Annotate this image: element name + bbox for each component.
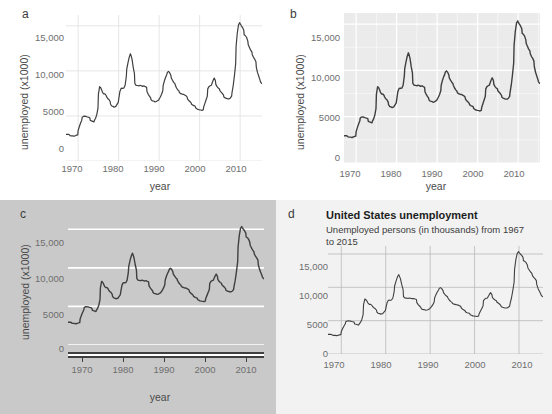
panel-c-plot-area — [68, 220, 264, 345]
panel-b-ytick-10000: 10,000 — [296, 72, 340, 83]
panel-c-ytick-5000: 5000 — [20, 309, 64, 320]
panel-d-ytick-10000: 10,000 — [284, 290, 328, 301]
panel-b-ytick-15000: 15,000 — [296, 32, 340, 43]
panel-d-ytick-0: 0 — [284, 348, 328, 359]
panel-c-xtickmark-2010 — [246, 358, 247, 362]
panel-c-y-axis-title: unemployed (x1000) — [19, 244, 31, 340]
panel-b-xtick-1990: 1990 — [415, 168, 449, 179]
panel-b-plot-area — [344, 13, 540, 163]
panel-d-xtick-2010: 2010 — [505, 359, 539, 370]
panel-b-xtick-2000: 2000 — [456, 168, 490, 179]
panel-d-xtick-2000: 2000 — [458, 359, 492, 370]
figure-canvas: a unemployed (x1000) year 0 5000 10,000 … — [0, 0, 552, 414]
panel-d-subtitle: Unemployed persons (in thousands) from 1… — [326, 224, 526, 248]
panel-c-xtickmark-2000 — [205, 358, 206, 362]
panel-a-ytick-0: 0 — [22, 143, 64, 154]
panel-c-x-axis-title: year — [60, 391, 260, 403]
panel-a-ytick-10000: 10,000 — [22, 69, 64, 80]
panel-d-xtick-1980: 1980 — [364, 359, 398, 370]
panel-c-xtick-1990: 1990 — [147, 364, 181, 375]
panel-c-ytick-15000: 15,000 — [20, 237, 64, 248]
panel-d-plot-area — [328, 246, 543, 354]
panel-a-xtick-1970: 1970 — [55, 163, 89, 174]
panel-b-ytick-0: 0 — [296, 152, 340, 163]
panel-b-xtick-1980: 1980 — [374, 168, 408, 179]
panel-d-title: United States unemployment — [326, 209, 478, 221]
panel-c-x-axis-bar — [68, 352, 264, 358]
panel-a-xtick-1990: 1990 — [137, 163, 171, 174]
panel-b-xtick-1970: 1970 — [333, 168, 367, 179]
panel-b-y-axis-title: unemployed (x1000) — [294, 54, 306, 150]
panel-a-ytick-15000: 15,000 — [22, 32, 64, 43]
panel-d-ytick-5000: 5000 — [284, 319, 328, 330]
panel-c-xtickmark-1980 — [123, 358, 124, 362]
panel-a-letter: a — [22, 8, 29, 20]
panel-c-xtickmark-1970 — [82, 358, 83, 362]
panel-b: b unemployed (x1000) year 0 5000 10,000 … — [276, 0, 552, 200]
panel-c-xtick-1980: 1980 — [106, 364, 140, 375]
panel-d-ytick-15000: 15,000 — [284, 261, 328, 272]
panel-a-xtick-2000: 2000 — [178, 163, 212, 174]
panel-c-xtickmark-1990 — [164, 358, 165, 362]
panel-b-xtick-2010: 2010 — [497, 168, 531, 179]
panel-c-xtick-2010: 2010 — [229, 364, 263, 375]
panel-c-xtick-1970: 1970 — [65, 364, 99, 375]
panel-d: d United States unemployment Unemployed … — [276, 200, 552, 414]
panel-c-ytick-0: 0 — [20, 343, 64, 354]
panel-b-x-axis-title: year — [336, 180, 536, 192]
panel-b-letter: b — [290, 8, 297, 20]
panel-a-xtick-1980: 1980 — [96, 163, 130, 174]
panel-d-xtick-1990: 1990 — [411, 359, 445, 370]
panel-c-letter: c — [20, 208, 26, 220]
panel-a-plot-area — [66, 15, 262, 161]
panel-b-ytick-5000: 5000 — [296, 112, 340, 123]
panel-a-ytick-5000: 5000 — [22, 106, 64, 117]
panel-a: a unemployed (x1000) year 0 5000 10,000 … — [0, 0, 276, 200]
panel-c-xtick-2000: 2000 — [188, 364, 222, 375]
panel-c-ytick-10000: 10,000 — [20, 273, 64, 284]
panel-a-x-axis-title: year — [60, 180, 260, 192]
panel-c: c unemployed (x1000) year 0 5000 10,000 … — [0, 200, 276, 414]
panel-a-xtick-2010: 2010 — [219, 163, 253, 174]
panel-d-xtick-1970: 1970 — [317, 359, 351, 370]
panel-d-letter: d — [288, 208, 295, 220]
